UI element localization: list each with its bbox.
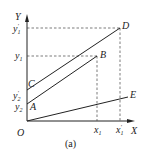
point-e-label: E [129, 89, 136, 100]
y-axis-arrow-icon [25, 14, 29, 22]
x-axis-label: X [130, 125, 138, 136]
x-axis-arrow-icon [127, 119, 135, 123]
y-axis-label: Y [15, 11, 22, 22]
point-b-label: B [100, 49, 106, 60]
y2-label: y2 [14, 101, 22, 113]
diagram: Y X O A B C D E y1′ y1 y2′ y2 x1 x1′ (a) [0, 0, 146, 156]
figure-caption: (a) [65, 138, 76, 150]
point-a-label: A [29, 101, 37, 112]
y1-prime-label: y1′ [12, 23, 20, 35]
x1-label: x1 [93, 124, 101, 136]
y1-label: y1 [14, 50, 22, 62]
point-c-label: C [28, 78, 35, 89]
origin-label: O [17, 127, 24, 138]
line-a-b [27, 56, 97, 104]
point-d-label: D [121, 20, 130, 31]
x1-prime-label: x1′ [115, 124, 123, 136]
line-o-e [27, 97, 128, 121]
